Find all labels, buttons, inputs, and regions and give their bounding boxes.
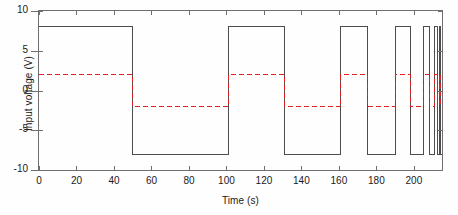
y-tick-right — [438, 51, 443, 52]
x-tick-label: 60 — [136, 175, 166, 186]
x-tick-top — [39, 10, 40, 15]
x-tick-top — [114, 10, 115, 15]
x-tick-label: 100 — [211, 175, 241, 186]
x-tick — [376, 166, 377, 171]
x-tick — [114, 166, 115, 171]
x-tick — [264, 166, 265, 171]
y-tick-label: 10 — [0, 4, 28, 15]
x-tick-label: 0 — [24, 175, 54, 186]
y-tick — [31, 11, 38, 12]
y-tick-inner — [38, 130, 43, 131]
y-tick-right — [438, 130, 443, 131]
x-tick — [301, 166, 302, 171]
x-tick-label: 120 — [249, 175, 279, 186]
x-tick-label: 180 — [361, 175, 391, 186]
y-tick — [31, 130, 38, 131]
x-tick-label: 160 — [324, 175, 354, 186]
x-tick — [39, 166, 40, 171]
x-tick — [414, 166, 415, 171]
x-tick-top — [414, 10, 415, 15]
x-tick-top — [151, 10, 152, 15]
x-tick-top — [264, 10, 265, 15]
series-canvas — [39, 11, 442, 170]
y-tick-label: 0 — [0, 84, 28, 95]
series-input-voltage — [39, 27, 442, 154]
y-tick-label: -10 — [0, 163, 28, 174]
y-tick — [31, 170, 38, 171]
x-tick-label: 140 — [286, 175, 316, 186]
x-tick-top — [376, 10, 377, 15]
x-tick — [339, 166, 340, 171]
y-tick-label: 5 — [0, 44, 28, 55]
x-tick-label: 80 — [174, 175, 204, 186]
chart-figure: Input voltage (V) Time (s) 1050-5-10 020… — [0, 0, 458, 215]
x-tick-label: 200 — [399, 175, 429, 186]
y-tick-right — [438, 11, 443, 12]
y-tick-label: -5 — [0, 123, 28, 134]
x-tick — [76, 166, 77, 171]
x-tick-label: 40 — [99, 175, 129, 186]
y-tick-right — [438, 91, 443, 92]
x-tick-top — [301, 10, 302, 15]
plot-area — [38, 10, 443, 171]
y-tick-inner — [38, 91, 43, 92]
y-tick — [31, 51, 38, 52]
x-tick-top — [76, 10, 77, 15]
x-tick — [189, 166, 190, 171]
x-tick-top — [189, 10, 190, 15]
x-tick — [151, 166, 152, 171]
x-tick-label: 20 — [61, 175, 91, 186]
series-reference-square — [39, 75, 442, 107]
x-tick-top — [339, 10, 340, 15]
y-tick-right — [438, 170, 443, 171]
y-tick-inner — [38, 51, 43, 52]
x-tick — [226, 166, 227, 171]
y-tick — [31, 91, 38, 92]
x-axis-label: Time (s) — [38, 195, 443, 206]
x-tick-top — [226, 10, 227, 15]
